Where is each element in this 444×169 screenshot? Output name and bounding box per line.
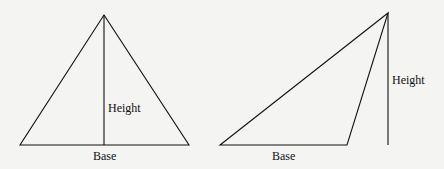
obtuse-triangle-base-label: Base xyxy=(272,149,295,163)
acute-triangle-height-label: Height xyxy=(108,101,141,115)
obtuse-triangle-height-label: Height xyxy=(392,73,425,87)
acute-triangle: Height Base xyxy=(20,15,189,163)
triangle-diagram: Height Base Height Base xyxy=(0,0,444,169)
acute-triangle-base-label: Base xyxy=(93,149,116,163)
obtuse-triangle-outline xyxy=(220,13,388,145)
obtuse-triangle: Height Base xyxy=(220,13,425,163)
